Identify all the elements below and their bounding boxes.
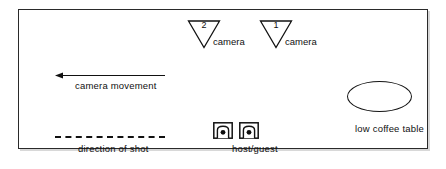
- camera-2-group[interactable]: 2 camera: [187, 19, 221, 49]
- direction-of-shot-label: direction of shot: [78, 143, 148, 154]
- plan-frame: 2 camera 1 camera camera movement direct…: [18, 9, 428, 149]
- camera-1-group[interactable]: 1 camera: [259, 19, 293, 49]
- camera-1-number: 1: [259, 20, 293, 30]
- armchair-host[interactable]: [213, 122, 233, 139]
- diagram-canvas: 2 camera 1 camera camera movement direct…: [0, 0, 446, 169]
- armchair-top-view-icon: [213, 122, 233, 139]
- camera-2-label: camera: [213, 37, 245, 47]
- dashed-line-icon: [55, 136, 165, 138]
- host-guest-label: host/guest: [232, 143, 278, 154]
- armchair-guest[interactable]: [239, 122, 259, 139]
- camera-movement-label: camera movement: [75, 80, 157, 91]
- left-arrow-icon: [55, 71, 165, 80]
- camera-movement-arrow: [55, 66, 165, 75]
- armchair-top-view-icon: [239, 122, 259, 139]
- coffee-table-label: low coffee table: [355, 123, 424, 134]
- camera-1-label: camera: [285, 37, 317, 47]
- ellipse-icon[interactable]: [347, 81, 412, 112]
- camera-2-number: 2: [187, 20, 221, 30]
